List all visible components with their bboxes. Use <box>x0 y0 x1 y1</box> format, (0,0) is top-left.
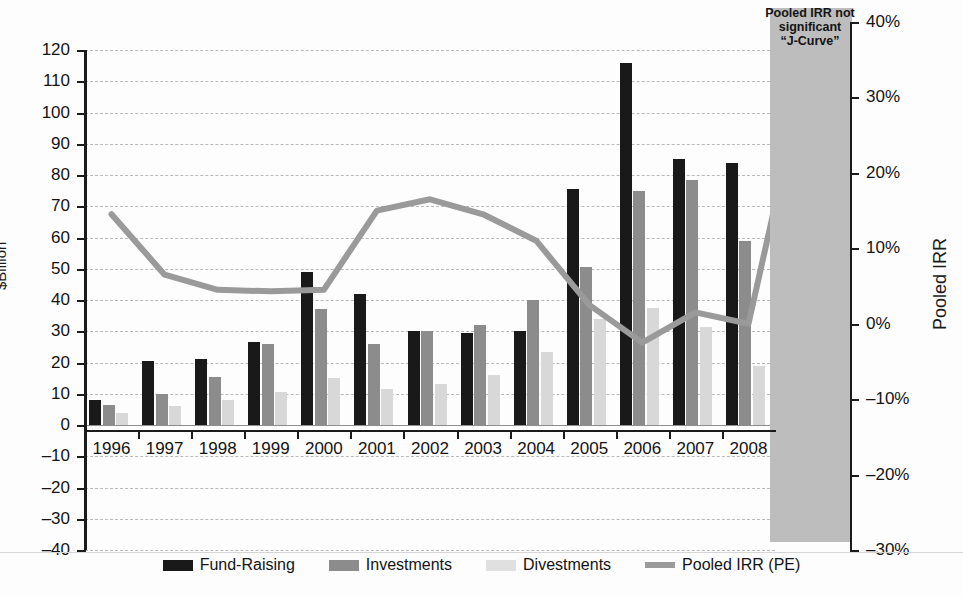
legend-label: Fund-Raising <box>200 556 295 574</box>
y-axis-left-tick <box>77 394 86 396</box>
x-axis-tick <box>616 430 618 439</box>
y-axis-left-tick <box>77 269 86 271</box>
x-axis-tick-label: 2003 <box>453 440 513 458</box>
x-axis-tick <box>191 430 193 439</box>
gridline <box>85 550 775 551</box>
y-axis-left-tick-label: 120 <box>42 41 70 58</box>
y-axis-left-tick-label: 20 <box>51 354 70 371</box>
annotation-line-2: significant <box>762 20 858 34</box>
y-axis-right-tick-label: 20% <box>866 164 900 181</box>
y-axis-left-tick <box>77 81 86 83</box>
legend-swatch-inv <box>329 560 359 571</box>
y-axis-right-tick <box>850 475 859 477</box>
x-axis-tick-label: 1998 <box>188 440 248 458</box>
pooled-irr-polyline <box>112 199 774 342</box>
y-axis-right-tick-label: 0% <box>866 315 891 332</box>
y-axis-right-tick <box>850 22 859 24</box>
x-axis-tick-label: 2004 <box>506 440 566 458</box>
y-axis-left-tick-label: 30 <box>51 322 70 339</box>
y-axis-left-tick-label: 40 <box>51 291 70 308</box>
x-axis-tick <box>669 430 671 439</box>
y-axis-left-tick-label: 80 <box>51 166 70 183</box>
legend-label: Divestments <box>523 556 611 574</box>
y-axis-left-tick <box>77 488 86 490</box>
x-axis-tick <box>85 430 87 439</box>
chart-root: Pooled IRR not significant “J-Curve” 120… <box>0 0 963 597</box>
x-axis-tick-label: 1996 <box>82 440 142 458</box>
y-axis-right-tick-label: 10% <box>866 239 900 256</box>
footer-divider <box>0 552 963 553</box>
y-axis-left-tick <box>77 425 86 427</box>
x-axis-tick-label: 2005 <box>559 440 619 458</box>
y-axis-left-tick <box>77 50 86 52</box>
y-axis-left-tick-label: 90 <box>51 135 70 152</box>
x-axis-tick-label: 2000 <box>294 440 354 458</box>
x-axis-tick <box>350 430 352 439</box>
x-axis-tick <box>457 430 459 439</box>
legend-swatch-fund <box>163 560 193 571</box>
legend-item: Divestments <box>486 556 611 574</box>
y-axis-left-tick-label: –20 <box>42 479 70 496</box>
y-axis-right-tick-label: 40% <box>866 13 900 30</box>
y-axis-right-tick <box>850 97 859 99</box>
x-axis-tick <box>403 430 405 439</box>
y-axis-left-tick <box>77 331 86 333</box>
y-axis-right-tick <box>850 399 859 401</box>
x-axis-tick <box>297 430 299 439</box>
x-axis-tick <box>138 430 140 439</box>
x-axis-tick-label: 2008 <box>718 440 778 458</box>
x-axis-tick-label: 2001 <box>347 440 407 458</box>
y-axis-left-tick <box>77 363 86 365</box>
y-axis-right-tick-label: –10% <box>866 390 909 407</box>
y-axis-left-tick-label: 0 <box>61 416 70 433</box>
annotation-line-1: Pooled IRR not <box>762 6 858 20</box>
y-axis-left-tick-label: 50 <box>51 260 70 277</box>
y-axis-left-tick <box>77 175 86 177</box>
pooled-irr-line <box>85 50 775 550</box>
x-axis-line <box>84 430 776 432</box>
y-axis-left-tick-label: 110 <box>43 72 70 89</box>
y-axis-left-tick-label: 70 <box>51 197 70 214</box>
y-axis-left-tick <box>77 300 86 302</box>
y-axis-left-title: $Billion <box>0 242 9 290</box>
chart-legend: Fund-RaisingInvestmentsDivestmentsPooled… <box>0 556 963 574</box>
legend-label: Investments <box>366 556 452 574</box>
y-axis-left-tick <box>77 238 86 240</box>
y-axis-left-tick-label: 10 <box>51 385 70 402</box>
x-axis-tick-label: 1999 <box>241 440 301 458</box>
y-axis-left-labels: 1201101009080706050403020100–10–20–30–40 <box>0 50 84 550</box>
x-axis-tick-label: 1997 <box>135 440 195 458</box>
x-axis-tick-label: 2007 <box>665 440 725 458</box>
y-axis-left-tick <box>77 206 86 208</box>
legend-item: Pooled IRR (PE) <box>645 556 800 574</box>
legend-swatch-line <box>645 562 675 568</box>
y-axis-left-tick <box>77 113 86 115</box>
legend-item: Investments <box>329 556 452 574</box>
y-axis-right-tick <box>850 324 859 326</box>
y-axis-right-tick-label: –20% <box>866 466 909 483</box>
x-axis-tick <box>510 430 512 439</box>
y-axis-left-tick <box>77 144 86 146</box>
x-axis-tick-label: 2002 <box>400 440 460 458</box>
y-axis-left-tick-label: 100 <box>42 104 70 121</box>
y-axis-right-tick <box>850 248 859 250</box>
legend-item: Fund-Raising <box>163 556 295 574</box>
y-axis-right-tick <box>850 173 859 175</box>
legend-swatch-div <box>486 560 516 571</box>
x-axis-tick <box>244 430 246 439</box>
annotation-line-3: “J-Curve” <box>762 34 858 48</box>
y-axis-left-tick-label: –30 <box>42 510 70 527</box>
j-curve-annotation: Pooled IRR not significant “J-Curve” <box>762 6 858 48</box>
x-axis-tick <box>563 430 565 439</box>
j-curve-shaded-region <box>770 8 852 542</box>
y-axis-left-tick-label: –10 <box>42 447 70 464</box>
y-axis-left-tick-label: 60 <box>51 229 70 246</box>
y-axis-left-tick <box>77 519 86 521</box>
x-axis-tick-label: 2006 <box>612 440 672 458</box>
x-axis-tick <box>722 430 724 439</box>
y-axis-right-tick-label: 30% <box>866 88 900 105</box>
legend-label: Pooled IRR (PE) <box>682 556 800 574</box>
y-axis-right-title: Pooled IRR <box>930 238 951 330</box>
